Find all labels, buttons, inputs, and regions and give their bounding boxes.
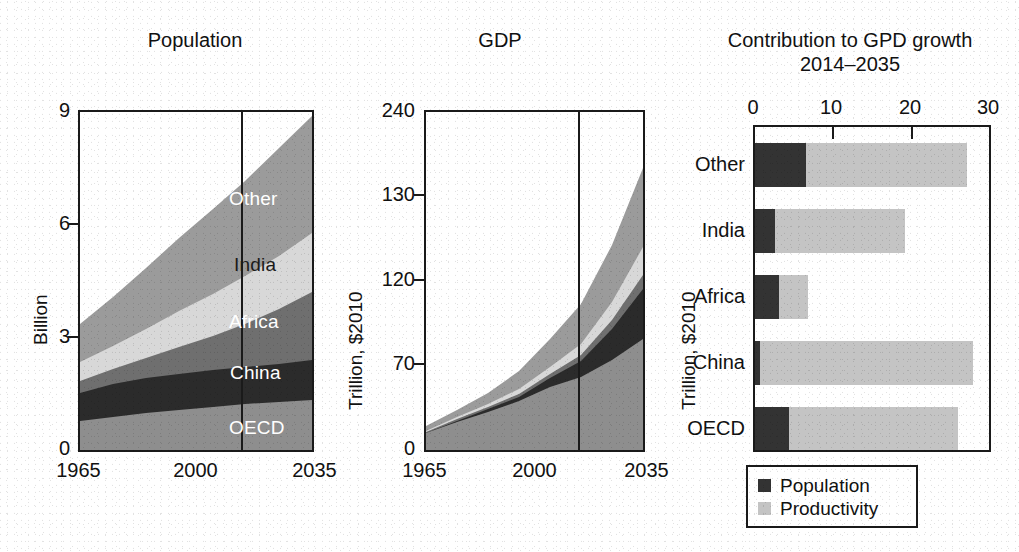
legend-label-population: Population: [780, 476, 870, 495]
population-band-label-india: India: [234, 254, 276, 276]
contribution-category-africa: Africa: [640, 285, 745, 308]
population-ytick-9: 9: [28, 99, 70, 122]
gdp-ytick-120: 120: [355, 268, 415, 291]
population-stacked-areas: [80, 112, 312, 450]
gdp-year-divider: [578, 112, 580, 450]
bar-row-india: [755, 209, 989, 253]
contribution-category-india: India: [640, 219, 745, 242]
contribution-category-other: Other: [640, 153, 745, 176]
bar-segment-population: [755, 209, 775, 253]
bar-segment-population: [755, 143, 806, 187]
figure-root: Population Billion 9 6 3 0: [0, 0, 1019, 552]
gdp-ytick-0: 0: [355, 437, 415, 460]
population-year-divider: [241, 112, 243, 450]
contribution-category-oecd: OECD: [640, 417, 745, 440]
population-title: Population: [40, 28, 350, 52]
gdp-ylabel: Trillion, $2010: [345, 291, 367, 410]
bar-segment-productivity: [806, 143, 967, 187]
gdp-ytick-70: 70: [355, 352, 415, 375]
population-ytick-6: 6: [28, 212, 70, 235]
population-xtick-1965: 1965: [36, 459, 121, 482]
bar-row-china: [755, 341, 989, 385]
population-xtick-2035: 2035: [272, 459, 357, 482]
legend-row-population: Population: [758, 474, 904, 497]
contribution-plot-area: [753, 125, 991, 452]
gdp-xtick-1965: 1965: [382, 459, 467, 482]
legend-swatch-productivity: [758, 502, 771, 515]
gdp-stacked-areas: [426, 112, 643, 450]
bar-segment-population: [755, 407, 789, 451]
bar-segment-productivity: [775, 209, 905, 253]
contribution-category-china: China: [640, 351, 745, 374]
gdp-title: GDP: [350, 28, 650, 52]
gdp-plot-area: [424, 110, 645, 452]
bar-segment-population: [755, 275, 779, 319]
bar-row-africa: [755, 275, 989, 319]
population-plot-area: [78, 110, 314, 452]
contribution-xtick-30: 30: [968, 96, 1008, 119]
population-ytick-3: 3: [28, 325, 70, 348]
population-band-label-other: Other: [229, 188, 278, 210]
legend-label-productivity: Productivity: [780, 499, 878, 518]
contribution-title: Contribution to GPD growth 2014–2035: [690, 28, 1010, 76]
bar-segment-productivity: [779, 275, 808, 319]
population-xtick-2000: 2000: [153, 459, 238, 482]
population-band-label-china: China: [230, 362, 281, 384]
bar-row-oecd: [755, 407, 989, 451]
contribution-tickmark-20: [911, 127, 913, 139]
contribution-xtick-10: 10: [811, 96, 851, 119]
gdp-xtick-2000: 2000: [492, 459, 577, 482]
population-band-label-africa: Africa: [229, 311, 279, 333]
gdp-ytick-130: 130: [355, 183, 415, 206]
population-band-label-oecd: OECD: [229, 417, 285, 439]
contribution-xtick-0: 0: [733, 96, 773, 119]
gdp-xtick-2035: 2035: [604, 459, 689, 482]
bar-segment-productivity: [789, 407, 958, 451]
contribution-tickmark-10: [832, 127, 834, 139]
legend-swatch-population: [758, 479, 771, 492]
gdp-ytick-240: 240: [355, 99, 415, 122]
population-ytick-0: 0: [28, 437, 70, 460]
contribution-legend: Population Productivity: [746, 465, 918, 528]
contribution-xtick-20: 20: [890, 96, 930, 119]
legend-row-productivity: Productivity: [758, 497, 904, 520]
bar-row-other: [755, 143, 989, 187]
bar-segment-productivity: [760, 341, 973, 385]
